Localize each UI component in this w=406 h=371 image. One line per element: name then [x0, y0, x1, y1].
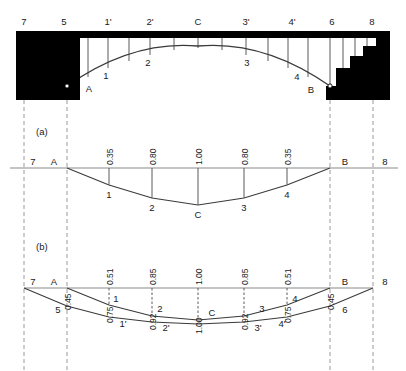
panel-b-upper-value: 0.51 [283, 268, 293, 285]
panel-a-label-8: 8 [382, 156, 387, 167]
panel-a-node: C [195, 209, 202, 220]
top-label-C: C [195, 16, 202, 27]
panel-a-label-A: A [51, 156, 58, 167]
panel-a-node: 1 [106, 189, 111, 200]
panel-a-node: 4 [284, 189, 289, 200]
arch-label-1: 1 [103, 70, 108, 81]
panel-b-tag: (b) [36, 241, 48, 252]
panel-b-lower-node: 2' [162, 322, 169, 333]
arch-label-2: 2 [145, 57, 150, 68]
arch-label-3: 3 [244, 57, 249, 68]
panel-b-upper-node: 3 [259, 303, 264, 314]
influence-line-figure: 7 5 1' 2' C 3' 4' 6 8 [0, 0, 406, 371]
panel-a-value: 0.35 [105, 148, 115, 165]
panel-b-lower-value: 0.45 [326, 293, 336, 310]
panel-b-label-7: 7 [30, 276, 35, 287]
spandrel-columns [32, 38, 367, 86]
panel-a-value: 1.00 [194, 148, 204, 165]
panel-b-lower-node: 5 [55, 304, 60, 315]
panel-b-upper-value: 0.85 [148, 268, 158, 285]
panel-b-upper-node: 4 [292, 293, 297, 304]
panel-b-upper-value: 0.51 [105, 268, 115, 285]
panel-a: (a) 7 A B 8 0.35 0.80 1.00 0.80 0.35 1 2… [10, 126, 398, 220]
panel-a-ordinates [109, 168, 287, 205]
panel-b-label-8: 8 [382, 276, 387, 287]
panel-b: (b) 7 A B 8 0.51 0.85 1.00 0.85 0.51 1 2… [24, 241, 388, 334]
top-label-6: 6 [329, 16, 334, 27]
top-label-7: 7 [21, 16, 26, 27]
top-label-5: 5 [61, 16, 66, 27]
panel-a-value: 0.35 [283, 148, 293, 165]
panel-b-lower-node: 3' [254, 322, 261, 333]
arch-label-B: B [308, 84, 314, 95]
hinge-A [65, 84, 69, 88]
top-label-8: 8 [369, 16, 374, 27]
panel-b-upper-node: 1 [113, 293, 118, 304]
panel-a-node: 2 [149, 202, 154, 213]
panel-b-lower-node: 6 [342, 304, 347, 315]
hinge-B [328, 84, 332, 88]
panel-b-lower-node: 4' [278, 318, 285, 329]
arch-label-4: 4 [294, 71, 299, 82]
panel-a-label-B: B [342, 156, 348, 167]
panel-b-label-A: A [51, 276, 58, 287]
right-abutment-body [326, 38, 390, 100]
panel-b-lower-node: 1' [119, 318, 126, 329]
panel-b-upper-node: C [209, 307, 216, 318]
panel-a-tag: (a) [36, 126, 48, 137]
top-label-4p: 4' [288, 16, 295, 27]
panel-b-lower-value: 1.00 [194, 317, 204, 334]
panel-b-upper-node: 2 [157, 303, 162, 314]
top-label-2p: 2' [146, 16, 153, 27]
bridge-elevation: 7 5 1' 2' C 3' 4' 6 8 [0, 0, 390, 100]
arch-label-A: A [86, 83, 93, 94]
top-label-3p: 3' [242, 16, 249, 27]
panel-b-lower-value: 0.45 [63, 293, 73, 310]
panel-a-value: 0.80 [148, 148, 158, 165]
panel-a-value: 0.80 [240, 148, 250, 165]
panel-b-lower-value: 0.92 [148, 313, 158, 330]
panel-b-upper-value: 0.85 [240, 268, 250, 285]
panel-b-upper-value: 1.00 [194, 268, 204, 285]
panel-b-label-B: B [342, 276, 348, 287]
panel-b-lower-value: 0.92 [240, 313, 250, 330]
panel-a-node: 3 [241, 202, 246, 213]
panel-a-label-7: 7 [30, 156, 35, 167]
top-label-1p: 1' [104, 16, 111, 27]
panel-b-lower-value: 0.75 [105, 306, 115, 323]
